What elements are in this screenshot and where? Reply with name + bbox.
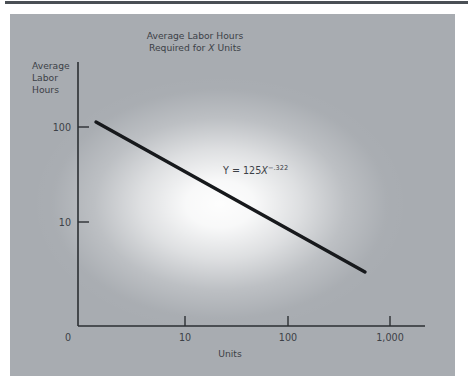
x-axis-label: Units <box>218 348 242 359</box>
chart-title-prefix: Required for <box>149 42 208 53</box>
x-tick-label-0: 0 <box>65 332 71 343</box>
equation-lhs: Y = 125 <box>222 165 261 176</box>
x-tick-label-100: 100 <box>279 332 297 343</box>
y-axis-label-line-3: Hours <box>32 84 59 95</box>
figure-panel: Average Labor Hours Required for X Units… <box>10 14 455 376</box>
y-tick-label-10: 10 <box>59 217 71 228</box>
chart-title-line-1: Average Labor Hours <box>147 30 244 41</box>
figure-root: Average Labor Hours Required for X Units… <box>0 0 473 390</box>
equation-annotation: Y = 125X−.322 <box>222 164 288 176</box>
chart-title-line-2: Required for X Units <box>149 42 241 53</box>
page-top-rule <box>5 1 468 4</box>
equation-exponent: −.322 <box>268 164 288 172</box>
learning-curve-line <box>96 122 365 272</box>
y-axis-label-line-2: Labor <box>32 72 58 83</box>
x-tick-label-1000: 1,000 <box>376 332 403 343</box>
x-tick-label-10: 10 <box>179 332 191 343</box>
y-axis-label-line-1: Average <box>32 60 70 71</box>
chart-title-suffix: Units <box>215 42 242 53</box>
y-tick-label-100: 100 <box>53 122 71 133</box>
chart-canvas: Average Labor Hours Required for X Units… <box>10 14 455 376</box>
